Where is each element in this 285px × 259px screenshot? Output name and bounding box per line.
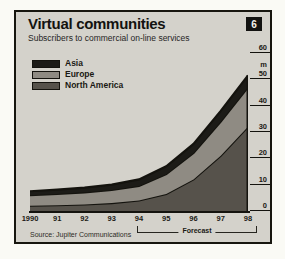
y-tick-50: 50 [250, 69, 270, 79]
x-tick-96: 96 [181, 214, 207, 223]
chart-card: Virtual communities Subscribers to comme… [14, 10, 272, 244]
y-tick-20: 20 [250, 148, 270, 158]
page-title: Virtual communities [28, 15, 165, 32]
y-tick-60: 60 [250, 43, 270, 53]
y-tick-40: 40 [250, 96, 270, 106]
y-tick-label: 40 [250, 96, 270, 105]
y-tick-30: 30 [250, 122, 270, 132]
forecast-label: Forecast [178, 227, 215, 234]
x-axis-line [29, 211, 250, 213]
forecast-bracket: Forecast [137, 226, 257, 233]
y-tick-label: 60 [250, 43, 270, 52]
x-tick-93: 93 [99, 214, 125, 223]
y-tick-0: 0 [250, 201, 270, 211]
x-tick-94: 94 [126, 214, 152, 223]
x-tick-1990: 1990 [17, 214, 43, 223]
figure-number-badge: 6 [246, 17, 262, 31]
y-tick-10: 10 [250, 175, 270, 185]
y-tick-label: 10 [250, 175, 270, 184]
source-note: Source: Jupiter Communications [30, 231, 131, 238]
x-tick-91: 91 [44, 214, 70, 223]
y-tick-label: 0 [250, 201, 270, 210]
x-tick-95: 95 [153, 214, 179, 223]
chart-subtitle: Subscribers to commercial on-line servic… [28, 33, 190, 43]
x-tick-97: 97 [208, 214, 234, 223]
y-tick-label: 20 [250, 148, 270, 157]
y-tick-label: 50 [250, 69, 270, 78]
x-tick-92: 92 [72, 214, 98, 223]
stacked-area-chart [30, 53, 248, 211]
x-tick-98: 98 [235, 214, 261, 223]
y-axis-unit-label: m [260, 60, 267, 69]
y-tick-label: 30 [250, 122, 270, 131]
